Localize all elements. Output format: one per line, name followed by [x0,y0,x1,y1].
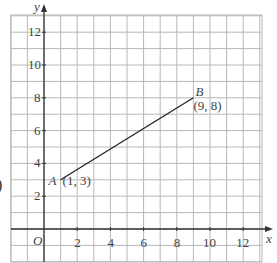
x-tick-label: 4 [107,236,114,249]
point-b-coords: (9, 8) [193,99,221,112]
point-b-label: B [195,85,203,98]
x-tick-label: 2 [74,236,81,249]
x-tick-label: 12 [236,236,249,249]
x-tick-label: 6 [141,236,148,249]
y-tick-label: 10 [28,58,41,71]
y-tick-label: 4 [34,156,41,169]
point-a-coords: (1, 3) [63,174,91,187]
coordinate-grid [0,0,277,263]
x-tick-label: 8 [174,236,181,249]
x-tick-label: 10 [203,236,216,249]
clipped-text-fragment: ) [0,176,2,194]
x-axis-label: x [266,232,272,245]
origin-label: O [33,234,42,247]
y-axis-arrow-icon [41,4,47,12]
y-tick-label: 6 [34,124,41,137]
y-tick-label: 12 [28,25,41,38]
y-axis-label: y [34,0,40,13]
y-tick-label: 2 [34,189,41,202]
point-a-label: A [49,174,57,187]
y-tick-label: 8 [34,91,41,104]
grid-border [11,15,262,262]
